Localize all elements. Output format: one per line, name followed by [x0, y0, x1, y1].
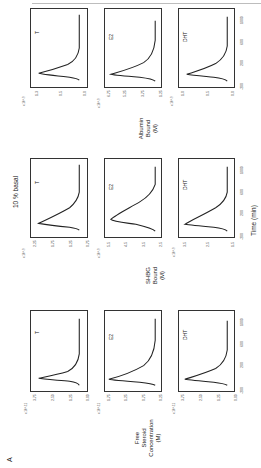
ytick: 3.75: [141, 90, 145, 97]
ytick: 3.5: [183, 242, 187, 247]
free-t-label: T: [34, 331, 40, 334]
shbg-dht-curve: [179, 159, 234, 237]
xtick: 1000: [240, 16, 244, 24]
ytick: 0.00: [234, 394, 238, 401]
row-label-line: Bound: [152, 259, 159, 293]
xtick: 200: [240, 60, 244, 66]
ytick: 5.25: [123, 90, 127, 97]
panel-free-dht: [178, 310, 235, 392]
ytick: 0.25: [159, 394, 163, 401]
xtick: 200: [240, 362, 244, 368]
ytick: 1.75: [107, 394, 111, 401]
ytick: 1.0: [181, 91, 185, 96]
y-scale-factor: x 10^-9: [172, 247, 176, 257]
shbg-t-curve: [31, 159, 87, 237]
y-scale-factor: x 10^-9: [22, 248, 26, 258]
albumin-e2-curve: [105, 9, 161, 87]
albumin-e2-label: E2: [108, 34, 114, 40]
free-t-curve: [31, 311, 87, 391]
albumin-t-label: T: [34, 31, 40, 34]
row-label-albumin: Albumin Bound (M): [138, 109, 159, 149]
xtick: 600: [240, 341, 244, 347]
figure-title: 10 % basal: [12, 176, 19, 208]
panel-shbg-dht: [178, 158, 235, 238]
shbg-e2-curve: [105, 159, 161, 237]
ytick: 0.5: [59, 91, 63, 96]
ytick: 2.5: [159, 242, 163, 247]
shbg-e2-label: E2: [108, 184, 114, 190]
ytick: 4.5: [124, 242, 128, 247]
free-e2-curve: [105, 311, 161, 391]
row-label-line: Bound: [145, 109, 152, 149]
ytick: 3.75: [33, 394, 37, 401]
ytick: 1.3: [35, 91, 39, 96]
xtick: 200: [240, 210, 244, 216]
xtick: 1000: [240, 318, 244, 326]
y-scale-factor: x 10^-9: [97, 248, 101, 258]
panel-shbg-t: [30, 158, 88, 238]
albumin-t-curve: [31, 9, 87, 87]
xtick: 600: [240, 189, 244, 195]
shbg-dht-label: DHT: [182, 180, 188, 190]
ytick: 0.0: [83, 91, 87, 96]
ytick: 0.0: [231, 91, 235, 96]
panel-albumin-t: [30, 8, 88, 88]
panel-free-e2: [104, 310, 162, 392]
albumin-dht-label: DHT: [182, 32, 188, 42]
ytick: 1.25: [69, 394, 73, 401]
y-scale-factor: x 10^-9: [22, 96, 26, 106]
panel-letter: A: [6, 457, 13, 462]
shbg-t-label: T: [34, 181, 40, 184]
free-dht-label: DHT: [182, 330, 188, 340]
ytick: 2.5: [206, 242, 210, 247]
row-label-free: Free Steroid Concentration (M): [134, 410, 162, 466]
row-label-line: (M): [155, 410, 162, 466]
y-scale-factor: x 10^-11: [172, 403, 176, 414]
ytick: 0.00: [86, 394, 90, 401]
row-label-shbg: SHBG Bound (M): [145, 259, 166, 293]
top-rule: [32, 3, 261, 4]
ytick: 3.75: [181, 394, 185, 401]
ytick: 1.5: [231, 242, 235, 247]
row-label-line: Steroid: [141, 410, 148, 466]
ytick: 1.75: [51, 240, 55, 247]
row-label-line: Free: [134, 410, 141, 466]
xtick: 600: [240, 39, 244, 45]
free-e2-label: E2: [108, 334, 114, 340]
ytick: 0.75: [86, 240, 90, 247]
ytick: 5.5: [107, 242, 111, 247]
xtick: -200: [240, 83, 244, 90]
ytick: 2.25: [33, 240, 37, 247]
ytick: 0.5: [206, 91, 210, 96]
free-dht-curve: [179, 311, 234, 391]
ytick: 2.50: [199, 394, 203, 401]
y-scale-factor: x 10^-9: [97, 98, 101, 108]
ytick: 3.5: [142, 242, 146, 247]
x-axis-label: Time (min): [250, 205, 257, 236]
panel-albumin-dht: [178, 8, 235, 88]
albumin-dht-curve: [179, 9, 234, 87]
ytick: 1.25: [124, 394, 128, 401]
xtick: 1000: [240, 166, 244, 174]
panel-albumin-e2: [104, 8, 162, 88]
ytick: 1.25: [217, 394, 221, 401]
row-label-line: SHBG: [145, 259, 152, 293]
panel-free-t: [30, 310, 88, 392]
y-scale-factor: x 10^-11: [24, 403, 28, 414]
ytick: 6.75: [107, 90, 111, 97]
row-label-line: (M): [159, 259, 166, 293]
ytick: 2.50: [51, 394, 55, 401]
row-label-line: (M): [152, 109, 159, 149]
panel-shbg-e2: [104, 158, 162, 238]
row-label-line: Concentration: [148, 410, 155, 466]
ytick: 0.75: [142, 394, 146, 401]
xtick: -200: [240, 387, 244, 394]
row-label-line: Albumin: [138, 109, 145, 149]
ytick: 1.25: [69, 240, 73, 247]
y-scale-factor: x 10^-9: [170, 96, 174, 106]
ytick: 1.25: [159, 90, 163, 97]
xtick: -200: [240, 233, 244, 240]
y-scale-factor: x 10^-11: [97, 403, 101, 414]
